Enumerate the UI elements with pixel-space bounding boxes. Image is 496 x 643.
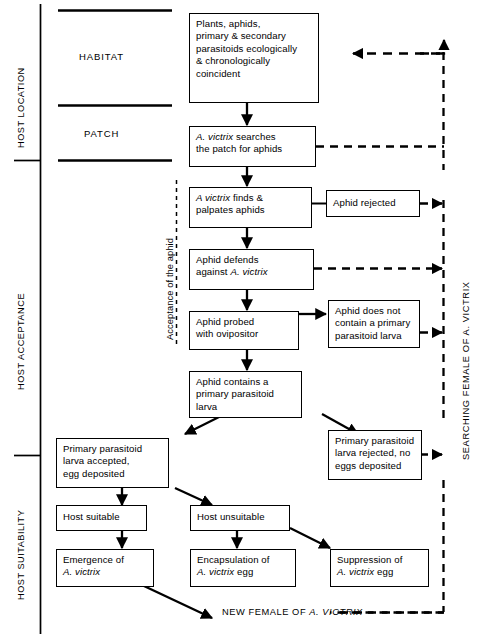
node-line: against A. victrix: [196, 266, 308, 278]
node-host-suitable[interactable]: Host suitable: [56, 505, 147, 531]
node-victrix-searches[interactable]: A. victrix searches the patch for aphids: [189, 126, 316, 167]
node-line: primary parasitoid: [196, 388, 296, 400]
node-line: & chronologically: [196, 55, 313, 67]
species-name: A. victrix: [337, 566, 374, 577]
node-aphid-probed[interactable]: Aphid probed with ovipositor: [189, 311, 299, 350]
node-line: Host suitable: [63, 511, 141, 523]
node-line: A. victrix: [63, 566, 148, 578]
node-line: with ovipositor: [196, 328, 293, 340]
node-line: contain a primary: [335, 317, 414, 329]
node-plants-aphids[interactable]: Plants, aphids, primary & secondary para…: [189, 13, 319, 103]
species-name: A victrix: [196, 192, 230, 203]
node-line: Encapsulation of: [197, 554, 290, 566]
node-aphid-rejected[interactable]: Aphid rejected: [326, 190, 420, 217]
species-name: A. victrix: [230, 266, 267, 277]
species-name: A. victrix: [63, 566, 100, 577]
node-line: Aphid rejected: [333, 197, 414, 209]
node-line: A. victrix searches: [196, 131, 310, 143]
node-line: A. victrix egg: [337, 566, 423, 578]
species-name: A. victrix: [196, 131, 233, 142]
node-line: palpates aphids: [196, 204, 306, 216]
node-line: Primary parasitoid: [63, 443, 163, 455]
node-line: larva accepted,: [63, 455, 163, 467]
node-line: Aphid probed: [196, 316, 293, 328]
node-encapsulation[interactable]: Encapsulation of A. victrix egg: [190, 549, 296, 587]
node-line: A victrix finds &: [196, 192, 306, 204]
arrow-unsuitable-to-suppression: [290, 528, 330, 548]
node-line: Aphid does not: [335, 305, 414, 317]
node-line: egg deposited: [63, 468, 163, 480]
node-aphid-contains[interactable]: Aphid contains a primary parasitoid larv…: [189, 371, 302, 418]
node-line: Aphid contains a: [196, 376, 296, 388]
node-line: coincident: [196, 68, 313, 80]
node-line: Primary parasitoid: [335, 435, 416, 447]
node-line: Plants, aphids,: [196, 18, 313, 30]
flowchart-page: HOST LOCATION HOST ACCEPTANCE HOST SUITA…: [0, 0, 496, 643]
node-victrix-finds[interactable]: A victrix finds & palpates aphids: [189, 187, 312, 228]
new-female-species: A. VICTRIX: [309, 607, 363, 617]
arrow-accepted-to-unsuitable: [175, 488, 212, 505]
node-larva-accepted[interactable]: Primary parasitoid larva accepted, egg d…: [56, 438, 169, 488]
acceptance-bracket-label: Acceptance of the aphid: [165, 238, 175, 340]
node-line: primary & secondary: [196, 30, 313, 42]
new-female-text-plain: NEW FEMALE OF: [222, 607, 309, 617]
searching-female-loop-label: SEARCHING FEMALE OF A. VICTRIX: [461, 281, 471, 460]
node-line: eggs deposited: [335, 460, 416, 472]
band-label-habitat: HABITAT: [79, 51, 124, 62]
loop-corner-up: [420, 40, 444, 54]
stage-label-host-location: HOST LOCATION: [16, 67, 26, 148]
node-line: A. victrix egg: [197, 566, 290, 578]
node-line: Aphid defends: [196, 254, 308, 266]
new-female-label: NEW FEMALE OF A. VICTRIX: [222, 607, 363, 617]
node-line: Suppression of: [337, 554, 423, 566]
node-emergence[interactable]: Emergence of A. victrix: [56, 549, 154, 587]
stage-label-host-suitability: HOST SUITABILITY: [16, 510, 26, 600]
node-line: Emergence of: [63, 554, 148, 566]
node-aphid-no-primary[interactable]: Aphid does not contain a primary parasit…: [328, 300, 420, 348]
band-label-patch: PATCH: [84, 128, 119, 139]
node-line: larva: [196, 401, 296, 413]
species-name: A. victrix: [197, 566, 234, 577]
node-line: Host unsuitable: [197, 511, 284, 523]
node-suppression[interactable]: Suppression of A. victrix egg: [330, 549, 429, 587]
node-aphid-defends[interactable]: Aphid defends against A. victrix: [189, 249, 314, 290]
node-line: parasitoid larva: [335, 330, 414, 342]
node-host-unsuitable[interactable]: Host unsuitable: [190, 505, 290, 531]
stage-label-host-acceptance: HOST ACCEPTANCE: [16, 293, 26, 390]
node-larva-rejected[interactable]: Primary parasitoid larva rejected, no eg…: [328, 430, 422, 480]
node-line: the patch for aphids: [196, 143, 310, 155]
node-line: larva rejected, no: [335, 447, 416, 459]
node-line: parasitoids ecologically: [196, 43, 313, 55]
